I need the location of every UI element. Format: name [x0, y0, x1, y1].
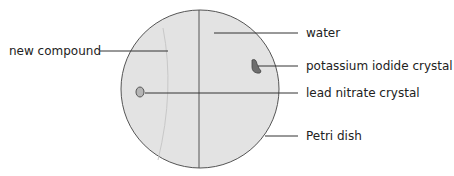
petri-dish — [121, 10, 279, 168]
label-new-compound: new compound — [9, 44, 101, 58]
label-potassium-iodide: potassium iodide crystal — [306, 59, 453, 73]
label-lead-nitrate: lead nitrate crystal — [306, 86, 420, 100]
lead-nitrate-crystal — [136, 87, 144, 97]
label-petri-dish: Petri dish — [306, 129, 362, 143]
label-water: water — [306, 26, 340, 40]
